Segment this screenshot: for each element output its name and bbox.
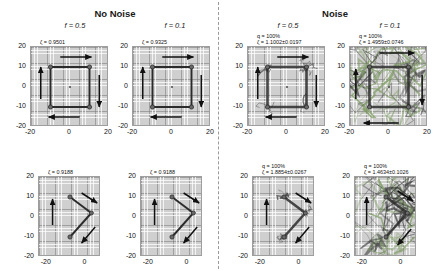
x-axis-tick: -20 xyxy=(351,258,373,265)
y-axis-tick: -10 xyxy=(114,232,136,239)
x-axis-tick: 0 xyxy=(160,128,182,135)
agent-node xyxy=(265,65,269,69)
plot-area xyxy=(132,46,210,126)
x-axis-tick: 20 xyxy=(97,128,119,135)
plot-panel xyxy=(247,46,325,126)
y-axis-tick: -10 xyxy=(221,102,243,109)
y-axis-tick: 20 xyxy=(12,172,34,179)
agent-node xyxy=(282,195,286,199)
panel-stats: ζ = 0.9188 xyxy=(150,169,175,175)
panel-stats: q = 100%ζ = 1.8854±0.0267 xyxy=(262,163,306,175)
x-axis-tick: -20 xyxy=(19,128,41,135)
y-axis-tick: 10 xyxy=(328,192,350,199)
y-axis-tick: 0 xyxy=(4,82,26,89)
x-axis-tick: 20 xyxy=(199,128,221,135)
agent-node xyxy=(304,105,308,109)
agent-node xyxy=(191,211,195,215)
plot-panel xyxy=(252,176,314,256)
agent-node xyxy=(189,65,193,69)
stat-line: ζ = 0.9188 xyxy=(150,169,175,175)
agent-node xyxy=(367,105,371,109)
x-axis-tick: 0 xyxy=(58,128,80,135)
x-axis-tick: -20 xyxy=(236,128,258,135)
agent-node xyxy=(367,65,371,69)
y-axis-tick: 10 xyxy=(226,192,248,199)
column-label-2: f = 0.5 xyxy=(248,21,328,30)
agent-node xyxy=(89,211,93,215)
y-axis-tick: 10 xyxy=(323,62,345,69)
agent-node xyxy=(48,65,52,69)
y-axis-tick: 20 xyxy=(226,172,248,179)
plot-area xyxy=(30,46,108,126)
plot-area xyxy=(354,176,416,256)
x-axis-tick: 0 xyxy=(288,258,310,265)
stat-line: ζ = 0.9325 xyxy=(142,39,167,45)
plot-area xyxy=(252,176,314,256)
agent-node xyxy=(384,195,388,199)
formation-link xyxy=(172,197,193,213)
panel-stats: ζ = 0.9501 xyxy=(40,39,65,45)
agent-node xyxy=(265,105,269,109)
y-axis-tick: 10 xyxy=(114,192,136,199)
direction-arrow xyxy=(296,227,310,243)
noise-trajectory xyxy=(256,103,266,108)
x-axis-tick: -20 xyxy=(35,258,57,265)
direction-arrow xyxy=(82,227,96,243)
y-axis-tick: 20 xyxy=(323,42,345,49)
x-axis-tick: -20 xyxy=(137,258,159,265)
y-axis-tick: -10 xyxy=(323,102,345,109)
y-axis-tick: 0 xyxy=(323,82,345,89)
group-title-no-noise: No Noise xyxy=(20,8,210,19)
x-axis-tick: 0 xyxy=(74,258,96,265)
y-axis-tick: 10 xyxy=(221,62,243,69)
panel-stats: ζ = 0.9188 xyxy=(48,169,73,175)
panel-stats: q = 100%ζ = 1.4634±0.1026 xyxy=(364,163,408,175)
x-axis-tick: 0 xyxy=(176,258,198,265)
y-axis-tick: 0 xyxy=(12,212,34,219)
x-axis-tick: 0 xyxy=(377,128,399,135)
y-axis-tick: 10 xyxy=(106,62,128,69)
plot-panel xyxy=(30,46,108,126)
x-axis-tick: -20 xyxy=(249,258,271,265)
y-axis-tick: 0 xyxy=(328,212,350,219)
direction-arrow xyxy=(82,193,98,203)
group-divider xyxy=(218,2,219,269)
plot-panel xyxy=(132,46,210,126)
agent-node xyxy=(303,211,307,215)
plot-area xyxy=(38,176,100,256)
agent-node xyxy=(170,195,174,199)
noise-trajectory xyxy=(300,58,305,65)
x-axis-tick: -20 xyxy=(121,128,143,135)
centroid-marker xyxy=(286,86,288,88)
y-axis-tick: 20 xyxy=(114,172,136,179)
agent-node xyxy=(68,195,72,199)
y-axis-tick: 0 xyxy=(221,82,243,89)
y-axis-tick: -20 xyxy=(114,252,136,259)
agent-node xyxy=(384,235,388,239)
column-label-3: f = 0.1 xyxy=(350,21,430,30)
column-label-0: f = 0.5 xyxy=(35,21,115,30)
direction-arrow xyxy=(184,227,198,243)
agent-node xyxy=(189,105,193,109)
agent-node xyxy=(150,105,154,109)
x-axis-tick: 20 xyxy=(416,128,438,135)
group-title-noise: Noise xyxy=(240,8,430,19)
noise-trajectory xyxy=(277,196,282,200)
y-axis-tick: 0 xyxy=(226,212,248,219)
y-axis-tick: -10 xyxy=(226,232,248,239)
plot-panel xyxy=(38,176,100,256)
x-axis-tick: -20 xyxy=(338,128,360,135)
plot-panel xyxy=(349,46,427,126)
plot-panel xyxy=(140,176,202,256)
stat-line: ζ = 1.4634±0.1026 xyxy=(364,169,408,175)
y-axis-tick: -10 xyxy=(12,232,34,239)
agent-node xyxy=(48,105,52,109)
agent-node xyxy=(282,235,286,239)
agent-node xyxy=(406,65,410,69)
plot-area xyxy=(349,46,427,126)
column-label-1: f = 0.1 xyxy=(135,21,215,30)
y-axis-tick: -10 xyxy=(106,102,128,109)
y-axis-tick: 20 xyxy=(4,42,26,49)
stat-line: ζ = 0.9501 xyxy=(40,39,65,45)
plot-panel xyxy=(354,176,416,256)
